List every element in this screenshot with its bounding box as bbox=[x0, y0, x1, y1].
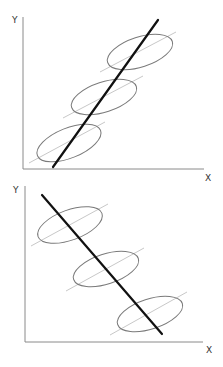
top-y-axis-label: Y bbox=[11, 15, 18, 25]
bottom-y-axis-label: Y bbox=[12, 185, 19, 195]
bottom-panel: Y X bbox=[12, 185, 212, 355]
top-overall-trend-line bbox=[53, 20, 158, 167]
bottom-group-ellipse-3 bbox=[113, 289, 187, 339]
top-x-axis-label: X bbox=[205, 173, 211, 183]
bottom-x-axis-label: X bbox=[206, 345, 212, 355]
diagram-canvas: Y X Y X bbox=[0, 0, 223, 367]
top-group-ellipse-3 bbox=[103, 27, 177, 77]
top-panel: Y X bbox=[11, 15, 211, 183]
